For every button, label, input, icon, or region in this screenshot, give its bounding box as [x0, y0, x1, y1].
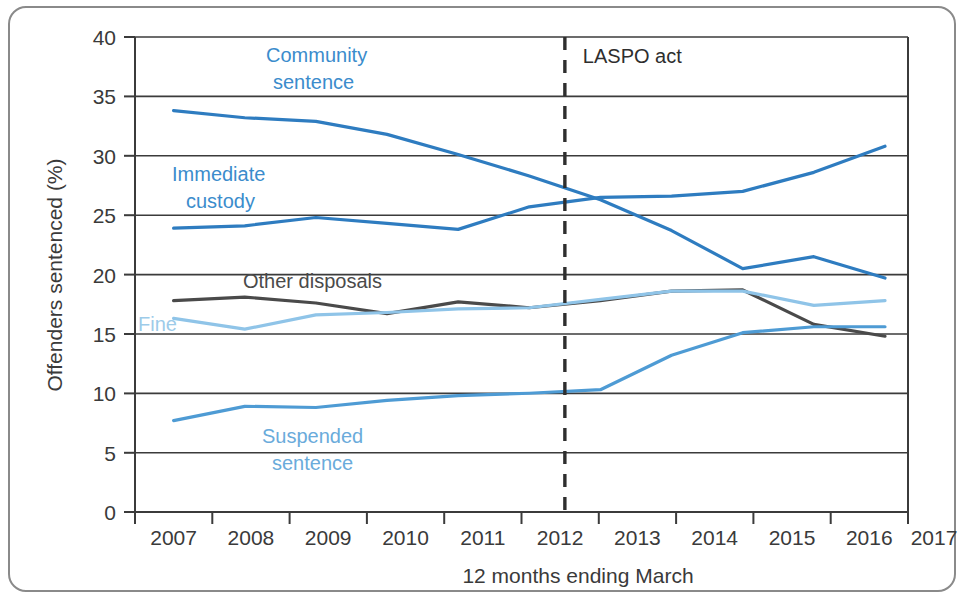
x-tick-marks — [135, 512, 908, 524]
y-tick-label-10: 10 — [93, 382, 116, 405]
x-tick-label-2013: 2013 — [614, 526, 661, 549]
y-axis-title: Offenders sentenced (%) — [43, 158, 66, 391]
series-line-community-sentence — [174, 111, 885, 278]
label-suspended-sentence-line1: Suspended — [262, 425, 363, 447]
y-tick-label-20: 20 — [93, 264, 116, 287]
series-annotations: Community sentence Immediate custody Oth… — [138, 44, 382, 474]
series-paths — [174, 111, 885, 421]
series-line-suspended-sentence — [174, 327, 885, 421]
y-tick-label-0: 0 — [104, 501, 116, 524]
x-tick-label-2014: 2014 — [691, 526, 738, 549]
laspo-event-label: LASPO act — [583, 45, 682, 67]
x-tick-label-2007: 2007 — [150, 526, 197, 549]
x-tick-label-2008: 2008 — [228, 526, 275, 549]
y-tick-label-40: 40 — [93, 26, 116, 49]
y-tick-label-15: 15 — [93, 323, 116, 346]
series-line-fine — [174, 291, 885, 329]
y-tick-label-5: 5 — [104, 442, 116, 465]
x-tick-label-2016: 2016 — [846, 526, 893, 549]
x-tick-label-2017: 2017 — [911, 526, 958, 549]
line-chart: 40 35 30 25 20 15 10 5 0 2007 2008 2009 … — [0, 0, 966, 602]
x-tick-label-2010: 2010 — [382, 526, 429, 549]
x-axis-title: 12 months ending March — [462, 564, 693, 587]
y-tick-label-35: 35 — [93, 85, 116, 108]
x-tick-label-2009: 2009 — [305, 526, 352, 549]
label-suspended-sentence-line2: sentence — [272, 452, 353, 474]
x-tick-label-2015: 2015 — [769, 526, 816, 549]
x-tick-labels: 2007 2008 2009 2010 2011 2012 2013 2014 … — [150, 526, 957, 549]
y-tick-label-25: 25 — [93, 204, 116, 227]
y-tick-label-30: 30 — [93, 145, 116, 168]
label-community-sentence-line1: Community — [266, 44, 367, 66]
gridlines — [135, 37, 908, 453]
x-tick-label-2012: 2012 — [537, 526, 584, 549]
label-community-sentence-line2: sentence — [273, 71, 354, 93]
series-line-immediate-custody — [174, 146, 885, 229]
chart-svg: 40 35 30 25 20 15 10 5 0 2007 2008 2009 … — [0, 0, 966, 602]
label-other-disposals: Other disposals — [243, 270, 382, 292]
label-immediate-custody-line2: custody — [186, 190, 255, 212]
label-fine: Fine — [138, 313, 177, 335]
y-tick-marks — [124, 37, 135, 512]
y-tick-labels: 40 35 30 25 20 15 10 5 0 — [93, 26, 116, 524]
label-immediate-custody-line1: Immediate — [172, 163, 265, 185]
x-tick-label-2011: 2011 — [460, 526, 505, 549]
